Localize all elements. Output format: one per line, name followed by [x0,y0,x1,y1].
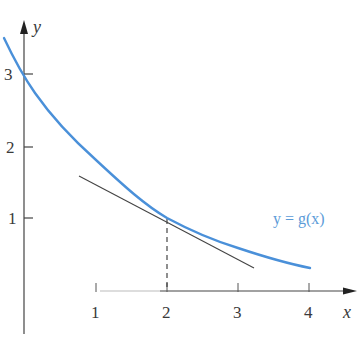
y-tick-label-3: 3 [4,65,13,84]
curve-label: y = g(x) [273,210,325,228]
x-tick-label-3: 3 [233,303,242,322]
curve-g [4,38,310,268]
y-axis-label: y [31,17,41,37]
x-axis [96,283,357,295]
y-axis [20,20,33,334]
function-graph-figure: y x 3 2 1 1 2 3 4 y = g(x) [0,0,361,347]
x-tick-label-1: 1 [91,303,100,322]
y-tick-label-1: 1 [8,209,17,228]
x-tick-label-2: 2 [162,303,171,322]
x-axis-arrow-icon [343,288,357,295]
y-tick-label-2: 2 [6,138,15,157]
graph-canvas: y x 3 2 1 1 2 3 4 y = g(x) [0,0,361,347]
tangent-line [79,176,254,268]
y-axis-arrow-icon [20,20,28,34]
x-axis-label: x [342,302,351,322]
x-tick-label-4: 4 [304,303,313,322]
